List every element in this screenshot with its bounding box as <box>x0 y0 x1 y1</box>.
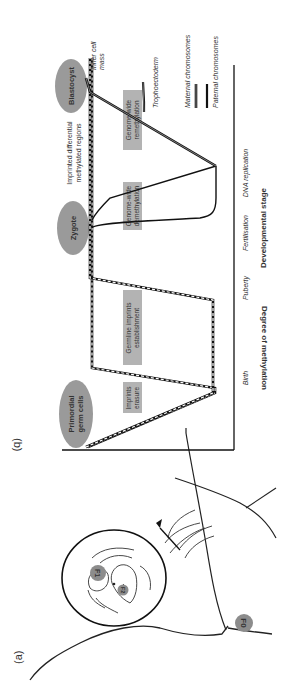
oval-primordial-germ-cells: Primordial germ cells <box>59 380 93 448</box>
svg-text:Blastocyst: Blastocyst <box>67 67 76 105</box>
legend-paternal-label: Paternal chromosomes <box>212 36 219 108</box>
magnify-arrowhead-icon <box>156 519 162 528</box>
panel-b-label: (b) <box>12 438 24 451</box>
svg-text:Germline imprints: Germline imprints <box>125 302 133 354</box>
imprinted-dmr-label-line2: methylated regions <box>75 123 83 183</box>
x-tick-dna-replication: DNA replication <box>242 149 250 197</box>
imprinted-dmr-label-line1: Imprinted differential <box>66 121 74 185</box>
svg-text:demethylation: demethylation <box>133 185 141 226</box>
trophoectoderm-label: Trophoectoderm <box>152 57 160 108</box>
x-tick-birth: Birth <box>242 371 249 386</box>
svg-text:erasure: erasure <box>133 387 140 409</box>
figure-container: (a) <box>0 0 284 698</box>
inner-cell-mass-label-line2: mass <box>98 53 105 70</box>
svg-text:F2: F2 <box>120 587 126 593</box>
f2-badge: F2 <box>118 585 129 596</box>
x-tick-puberty: Puberty <box>242 275 250 300</box>
imprinted-dmr-curves <box>86 58 215 447</box>
y-axis-label: Degree of methylation <box>260 306 269 390</box>
panel-a-label: (a) <box>12 651 24 664</box>
svg-text:Genome-wide: Genome-wide <box>125 99 132 140</box>
x-axis-label: Developmental stage <box>259 187 268 268</box>
panel-a: (a) <box>12 428 276 680</box>
legend-maternal-label: Maternal chromosomes <box>184 34 191 108</box>
svg-text:F1: F1 <box>94 569 101 577</box>
oval-blastocyst: Blastocyst <box>55 59 87 113</box>
mother-back-outline <box>30 626 228 680</box>
mother-abdomen-outline <box>175 478 276 538</box>
svg-text:Zygote: Zygote <box>69 216 78 241</box>
legend: Maternal chromosomes Paternal chromosome… <box>184 34 219 108</box>
panel-b: (b) Degree of methylation Developmental … <box>12 34 269 451</box>
mother-belly-outline <box>186 428 226 630</box>
x-tick-fertilisation: Fertilisation <box>242 215 249 251</box>
f0-badge: F0 <box>235 614 253 632</box>
svg-text:Primordial: Primordial <box>67 395 76 432</box>
magnified-womb-circle <box>62 530 166 626</box>
fetus-eye-dot <box>113 583 116 586</box>
inner-cell-mass-label-line1: Inner cell <box>90 41 97 70</box>
svg-text:germ cells: germ cells <box>76 395 85 432</box>
oval-zygote: Zygote <box>57 201 89 255</box>
svg-text:establishment: establishment <box>133 308 140 348</box>
f1-badge: F1 <box>90 565 106 581</box>
box-germline-imprints-establishment: Germline imprints establishment <box>123 290 142 365</box>
mother-thigh-line <box>246 488 276 508</box>
svg-text:F0: F0 <box>239 618 248 628</box>
box-imprints-erasure: Imprints erasure <box>123 382 142 413</box>
svg-text:Imprints: Imprints <box>125 386 133 410</box>
